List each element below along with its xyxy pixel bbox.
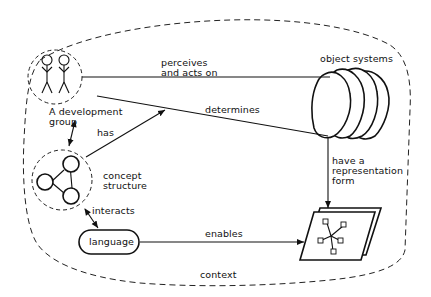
context-label: context <box>200 269 237 280</box>
person-icon <box>42 55 52 93</box>
object-systems-label: object systems <box>320 53 393 64</box>
interacts-label: interacts <box>92 205 135 216</box>
have-representation-label-3: form <box>332 175 355 186</box>
diagram-canvas: perceives and acts on determines has A d… <box>0 0 431 297</box>
person-icon <box>59 55 69 93</box>
determines-label: determines <box>205 104 260 115</box>
development-group-label-2: group <box>49 116 77 127</box>
representation-document-icon <box>300 208 381 260</box>
concept-structure-label-2: structure <box>103 180 147 191</box>
perceives-label-2: and acts on <box>161 67 218 78</box>
enables-label: enables <box>205 228 243 239</box>
development-group-node <box>28 50 82 104</box>
has-label: has <box>97 127 114 138</box>
concept-structure-node <box>32 150 92 210</box>
object-systems-icon <box>312 68 389 139</box>
language-label: language <box>89 236 134 247</box>
